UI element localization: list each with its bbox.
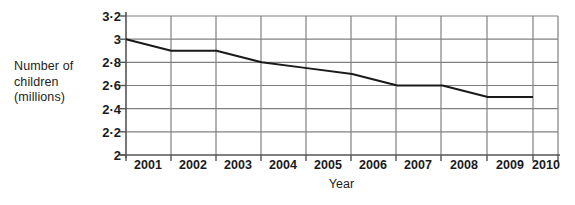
x-axis-title: Year — [125, 177, 558, 192]
x-tick-label-2003: 2003 — [213, 157, 263, 173]
data-series-line — [126, 39, 533, 97]
x-tick-label-2005: 2005 — [303, 157, 353, 173]
y-axis-ticks — [120, 16, 126, 155]
x-tick-label-2006: 2006 — [348, 157, 398, 173]
x-tick-label-2007: 2007 — [393, 157, 443, 173]
line-chart-figure: Number of children (millions) 3·2 3 2·8 … — [0, 0, 575, 205]
x-tick-label-2004: 2004 — [258, 157, 308, 173]
horizontal-gridlines — [126, 16, 558, 132]
x-tick-label-2002: 2002 — [168, 157, 218, 173]
x-tick-label-2001: 2001 — [123, 157, 173, 173]
x-tick-label-2008: 2008 — [439, 157, 489, 173]
x-axis-tick-labels: 2001 2002 2003 2004 2005 2006 2007 2008 … — [0, 157, 575, 177]
x-tick-label-2010: 2010 — [521, 157, 571, 173]
